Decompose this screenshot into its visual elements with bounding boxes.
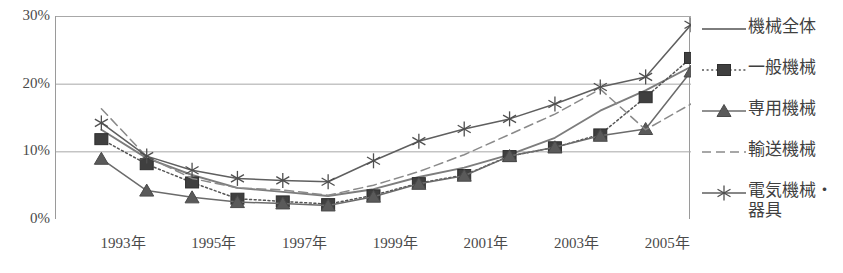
data-point-triangle (140, 184, 154, 196)
data-point-triangle (639, 123, 653, 135)
legend-symbol-line-dashed-plain (700, 137, 748, 167)
x-axis-tick-label: 1995年 (191, 236, 236, 251)
legend-symbol-svg (700, 137, 748, 167)
series-line (101, 25, 691, 182)
y-axis-tick-label: 20% (23, 76, 51, 91)
plot-svg (56, 16, 691, 219)
data-point-square (685, 52, 692, 63)
y-axis-tick-label: 10% (23, 143, 51, 158)
x-axis-tick-label: 1997年 (282, 236, 327, 251)
y-axis-tick-label: 0% (30, 211, 50, 226)
y-axis-tick-label: 30% (23, 8, 51, 23)
legend-symbol-svg (700, 96, 748, 126)
legend-symbol-svg (700, 55, 748, 85)
legend-label: 専用機械 (748, 96, 816, 119)
legend-label: 電気機械・ 器具 (748, 178, 833, 221)
chart-container: 0%10%20%30% 1993年1995年1997年1999年2001年200… (0, 0, 843, 273)
legend-item-1[interactable]: 一般機械 (700, 55, 843, 85)
plot-area (55, 16, 690, 219)
legend-item-3[interactable]: 輸送機械 (700, 137, 843, 167)
data-point-triangle (94, 152, 108, 164)
legend-symbol-line-dotted-square (700, 55, 748, 85)
chart-legend: 機械全体一般機械専用機械輸送機械電気機械・ 器具 (700, 14, 843, 219)
x-axis-labels: 1993年1995年1997年1999年2001年2003年2005年 (55, 236, 690, 262)
legend-item-0[interactable]: 機械全体 (700, 14, 843, 44)
legend-symbol-line-solid-plain (700, 14, 748, 44)
legend-symbol-svg (700, 14, 748, 44)
x-axis-tick-label: 2003年 (554, 236, 599, 251)
y-axis-labels: 0%10%20%30% (0, 0, 50, 273)
data-point-square (639, 92, 652, 103)
x-axis-tick-label: 1993年 (101, 236, 146, 251)
legend-symbol-line-solid-triangle (700, 96, 748, 126)
legend-label: 一般機械 (748, 55, 816, 78)
legend-label: 輸送機械 (748, 137, 816, 160)
legend-item-2[interactable]: 専用機械 (700, 96, 843, 126)
x-axis-tick-label: 1999年 (373, 236, 418, 251)
legend-marker-square (718, 65, 731, 76)
series-4 (95, 17, 691, 189)
legend-item-4[interactable]: 電気機械・ 器具 (700, 178, 843, 208)
x-axis-tick-label: 2001年 (463, 236, 508, 251)
legend-label: 機械全体 (748, 14, 816, 37)
legend-symbol-svg (700, 178, 748, 208)
data-point-square (95, 134, 108, 145)
data-point-triangle (684, 65, 691, 77)
legend-symbol-line-solid-asterisk (700, 178, 748, 208)
x-axis-tick-label: 2005年 (645, 236, 690, 251)
